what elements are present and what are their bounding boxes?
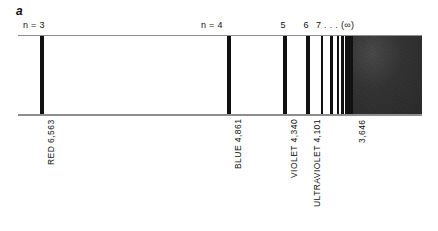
strip-bottom-rule — [18, 114, 422, 116]
quantum-number-label: n = 3 — [23, 20, 45, 31]
wavelength-label: BLUE 4,861 — [233, 119, 243, 169]
quantum-number-label: 6 — [304, 20, 309, 31]
wavelength-label: RED 6,563 — [46, 119, 56, 165]
spectral-line — [227, 36, 231, 114]
spectrum-strip — [18, 36, 422, 114]
spectral-line — [321, 36, 324, 114]
spectral-line — [337, 36, 339, 114]
wavelength-label: ULTRAVIOLET 4,101 — [312, 119, 322, 207]
continuum-block — [353, 36, 422, 114]
quantum-number-label: 7 . . . (∞) — [316, 20, 354, 31]
spectral-line — [283, 36, 287, 114]
spectral-line — [341, 36, 343, 114]
spectrum-figure: a n = 3n = 4567 . . . (∞) RED 6,563BLUE … — [0, 0, 438, 231]
panel-letter: a — [16, 4, 23, 18]
quantum-number-label: n = 4 — [201, 20, 223, 31]
spectral-line — [306, 36, 309, 114]
wavelength-label: VIOLET 4,340 — [289, 119, 299, 178]
wavelength-label: 3,646 — [357, 119, 367, 143]
spectral-line — [40, 36, 45, 114]
quantum-number-label: 5 — [281, 20, 286, 31]
spectral-line — [330, 36, 333, 114]
